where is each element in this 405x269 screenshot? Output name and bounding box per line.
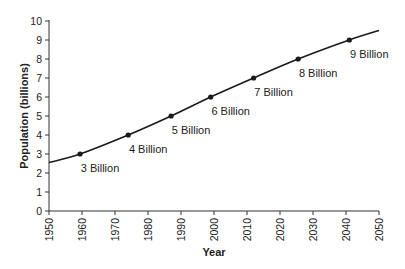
data-markers: 3 Billion4 Billion5 Billion6 Billion7 Bi… <box>77 37 388 174</box>
y-tick-label: 2 <box>36 167 42 179</box>
data-point <box>208 94 213 99</box>
x-tick-label: 1970 <box>109 218 121 242</box>
x-tick-label: 1960 <box>76 218 88 242</box>
x-tick-label: 2040 <box>340 218 352 242</box>
y-tick-label: 3 <box>36 148 42 160</box>
data-point <box>347 37 352 42</box>
y-tick-label: 7 <box>36 72 42 84</box>
x-tick-label: 1990 <box>175 218 187 242</box>
y-tick-label: 6 <box>36 91 42 103</box>
x-axis-title: Year <box>202 246 226 258</box>
x-tick-label: 2020 <box>274 218 286 242</box>
x-tick-label: 1980 <box>142 218 154 242</box>
y-tick-label: 0 <box>36 205 42 217</box>
data-point <box>296 56 301 61</box>
data-point-label: 9 Billion <box>350 48 389 60</box>
axes <box>45 20 379 215</box>
data-point <box>169 113 174 118</box>
data-point-label: 4 Billion <box>129 143 168 155</box>
x-tick-label: 2000 <box>208 218 220 242</box>
data-point-label: 8 Billion <box>299 67 338 79</box>
data-point-label: 7 Billion <box>254 86 293 98</box>
y-tick-label: 9 <box>36 34 42 46</box>
data-point <box>77 151 82 156</box>
y-tick-label: 10 <box>30 15 42 27</box>
x-tick-label: 2010 <box>241 218 253 242</box>
y-tick-label: 1 <box>36 186 42 198</box>
data-point-label: 5 Billion <box>172 124 211 136</box>
y-axis-title: Population (billions) <box>18 63 30 169</box>
y-tick-label: 4 <box>36 129 42 141</box>
y-tick-label: 8 <box>36 53 42 65</box>
x-tick-label: 2050 <box>373 218 385 242</box>
data-point-label: 3 Billion <box>81 162 120 174</box>
data-point <box>126 132 131 137</box>
x-tick-label: 2030 <box>307 218 319 242</box>
population-chart: 0123456789101950196019701980199020002010… <box>0 0 405 269</box>
data-point-label: 6 Billion <box>211 105 250 117</box>
data-point <box>251 75 256 80</box>
population-curve <box>49 31 379 163</box>
x-tick-label: 1950 <box>43 218 55 242</box>
y-tick-label: 5 <box>36 110 42 122</box>
